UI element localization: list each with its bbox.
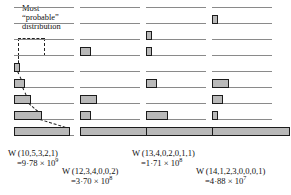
population-bar — [14, 79, 25, 88]
w-symbol: W — [8, 148, 16, 158]
population-bar — [14, 111, 42, 120]
population-bar — [80, 95, 97, 104]
energy-level-distribution-figure: Most “probable” distribution W (10,5,3,2… — [0, 0, 291, 195]
caption-distribution: W (13,4,0,2,0,1,1) — [132, 148, 195, 158]
leader-bracket-left — [18, 38, 19, 56]
energy-level-line — [212, 23, 272, 24]
w-symbol: W — [62, 166, 70, 176]
caption-exponent: 8 — [109, 175, 112, 182]
population-bar — [80, 127, 147, 136]
energy-level-line — [146, 71, 206, 72]
energy-level-line — [80, 7, 140, 8]
most-probable-annotation: Most “probable” distribution — [22, 4, 61, 32]
energy-level-line — [212, 39, 272, 40]
population-bar — [80, 47, 91, 56]
energy-level-line — [14, 23, 74, 24]
w-symbol: W — [196, 166, 204, 176]
energy-level-line — [146, 103, 206, 104]
energy-level-line — [14, 55, 74, 56]
energy-level-line — [212, 71, 272, 72]
population-bar — [212, 95, 223, 104]
population-bar — [212, 111, 218, 120]
population-bar — [14, 127, 70, 136]
caption-exponent: 9 — [55, 157, 58, 164]
energy-level-line — [80, 87, 140, 88]
energy-level-line — [14, 7, 74, 8]
population-bar — [80, 111, 91, 120]
population-bar — [146, 47, 152, 56]
caption-value: =9·78 × 109 — [8, 158, 58, 168]
energy-level-line — [80, 39, 140, 40]
caption-value: =1·71 × 108 — [132, 158, 195, 168]
caption-column-1: W (10,5,3,2,1)=9·78 × 109 — [8, 148, 58, 169]
energy-level-line — [212, 119, 272, 120]
energy-level-line — [212, 7, 272, 8]
population-bar — [212, 15, 218, 24]
population-bar — [146, 111, 168, 120]
energy-level-line — [80, 23, 140, 24]
leader-bracket-right — [44, 38, 45, 56]
caption-column-3: W (13,4,0,2,0,1,1)=1·71 × 108 — [132, 148, 195, 169]
population-bar — [212, 79, 229, 88]
energy-level-line — [212, 55, 272, 56]
annotation-line-2: “probable” — [22, 13, 61, 22]
caption-distribution: W (14,1,2,3,0,0,0,1) — [196, 166, 265, 176]
population-bar — [212, 127, 290, 136]
caption-distribution: W (10,5,3,2,1) — [8, 148, 58, 158]
energy-level-line — [146, 39, 206, 40]
energy-level-line — [80, 71, 140, 72]
caption-value: =3·70 × 108 — [62, 176, 118, 186]
energy-level-line — [14, 71, 74, 72]
population-bar — [146, 79, 157, 88]
annotation-line-1: Most — [22, 4, 61, 13]
energy-level-line — [146, 55, 206, 56]
caption-column-2: W (12,3,4,0,0,2)=3·70 × 108 — [62, 166, 118, 187]
w-symbol: W — [132, 148, 140, 158]
caption-value: =4·88 × 107 — [196, 176, 265, 186]
energy-level-line — [146, 23, 206, 24]
caption-column-4: W (14,1,2,3,0,0,0,1)=4·88 × 107 — [196, 166, 265, 187]
energy-level-line — [146, 7, 206, 8]
population-bar — [146, 127, 219, 136]
population-bar — [146, 31, 152, 40]
caption-exponent: 8 — [179, 157, 182, 164]
energy-level-line — [14, 39, 74, 40]
caption-exponent: 7 — [243, 175, 246, 182]
